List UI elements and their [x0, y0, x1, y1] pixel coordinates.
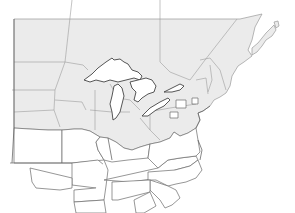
map [0, 0, 295, 213]
non-highlighted-states [10, 128, 202, 213]
